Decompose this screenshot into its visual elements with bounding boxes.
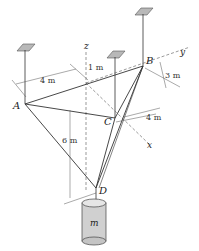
ceiling-plate-c bbox=[107, 51, 125, 118]
y-axis-label: y bbox=[179, 47, 186, 57]
dim-3m: 3 m bbox=[165, 71, 181, 80]
dim-6m: 6 m bbox=[62, 136, 78, 145]
cable-ad bbox=[25, 104, 96, 188]
cable-bd bbox=[96, 66, 143, 188]
cable-cd bbox=[96, 118, 115, 188]
ceiling-plate-a bbox=[17, 44, 35, 104]
point-a-label: A bbox=[12, 100, 20, 111]
point-b-label: B bbox=[145, 55, 153, 66]
x-axis-label: x bbox=[147, 140, 152, 150]
dim-4m-left: 4 m bbox=[40, 76, 56, 85]
z-axis-label: z bbox=[83, 41, 89, 51]
point-d-label: D bbox=[98, 185, 107, 196]
dim-4m-right: 4 m bbox=[146, 113, 162, 122]
diagram-canvas: m A B C D z y x 4 m 1 m 3 m 4 m 6 m bbox=[0, 0, 199, 251]
point-c-label: C bbox=[104, 116, 112, 127]
dimension-lines bbox=[12, 62, 180, 204]
statics-diagram: m A B C D z y x 4 m 1 m 3 m 4 m 6 m bbox=[0, 0, 199, 251]
mass-label: m bbox=[90, 218, 99, 228]
dim-1m: 1 m bbox=[88, 63, 104, 72]
